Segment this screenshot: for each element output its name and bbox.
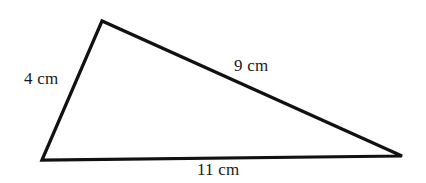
triangle-diagram: [0, 0, 426, 183]
side-label-top-right: 9 cm: [234, 57, 268, 74]
side-label-left: 4 cm: [24, 70, 58, 87]
triangle-outline: [42, 21, 402, 160]
side-label-bottom: 11 cm: [197, 161, 239, 178]
